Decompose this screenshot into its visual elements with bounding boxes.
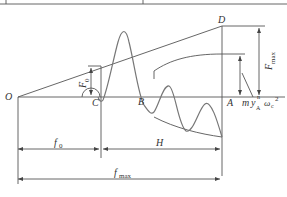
label-f0: f 0 xyxy=(54,137,63,150)
svg-text:max: max xyxy=(269,51,277,64)
label-Fmax: F max xyxy=(263,51,277,71)
top-border xyxy=(0,0,287,4)
force-deflection-diagram: O C B A D F 0 F max m y n A ω c 2 f 0 H … xyxy=(0,0,287,197)
svg-text:A: A xyxy=(256,105,261,111)
svg-text:0: 0 xyxy=(83,78,91,82)
svg-text:2: 2 xyxy=(275,95,279,103)
slope-line xyxy=(242,73,253,97)
label-B: B xyxy=(138,96,144,107)
svg-text:f: f xyxy=(114,167,118,178)
svg-text:n: n xyxy=(257,94,260,100)
envelope-lower xyxy=(154,117,222,137)
label-O: O xyxy=(5,91,12,102)
label-C: C xyxy=(92,97,99,108)
label-A: A xyxy=(226,97,234,108)
label-fmax: f max xyxy=(114,167,132,180)
svg-text:0: 0 xyxy=(59,142,63,150)
svg-text:c: c xyxy=(271,103,274,109)
label-H: H xyxy=(155,137,164,148)
svg-text:m: m xyxy=(242,97,249,108)
envelope-upper xyxy=(154,54,245,79)
svg-text:max: max xyxy=(119,172,132,180)
svg-text:ω: ω xyxy=(264,98,270,108)
svg-text:f: f xyxy=(54,137,58,148)
label-D: D xyxy=(217,14,226,25)
label-F0: F 0 xyxy=(77,78,91,89)
